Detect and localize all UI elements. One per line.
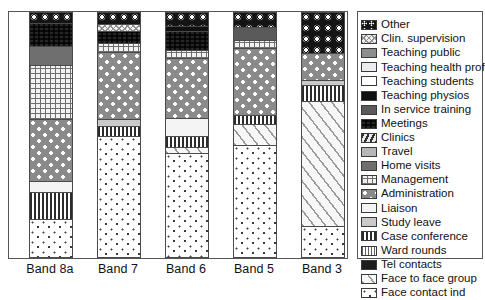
legend-item: Teaching students: [361, 74, 482, 88]
bar-band-6: [165, 12, 209, 258]
legend-item-label: Meetings: [381, 118, 428, 130]
bar-segment-in-service-training: [234, 27, 276, 41]
legend-item: Ward rounds: [361, 244, 482, 258]
legend-item-label: Administration: [381, 188, 454, 200]
bar-segment-case-conference: [98, 126, 140, 136]
bar-segment-face-contact-ind: [166, 153, 208, 257]
legend-swatch-icon: [361, 48, 377, 58]
legend-item-label: Face contact ind: [381, 287, 465, 299]
bar-segment-face-contact-ind: [30, 219, 72, 257]
bar-segment-administration: [30, 119, 72, 181]
bar-segment-other: [98, 13, 140, 24]
legend-item-label: Teaching physios: [381, 90, 469, 102]
legend-item: Teaching health prof: [361, 60, 482, 74]
bar-segment-other: [302, 13, 344, 53]
bar-band-3: [301, 12, 345, 258]
legend-item: Other: [361, 18, 482, 32]
bar-segment-face-to-face-group: [234, 124, 276, 145]
legend-swatch-icon: [361, 133, 377, 143]
bar-segment-other: [166, 13, 208, 26]
legend-item: Teaching physios: [361, 88, 482, 102]
legend-item: In service training: [361, 103, 482, 117]
legend-swatch-icon: [361, 105, 377, 115]
bar-segment-face-contact-ind: [98, 136, 140, 257]
legend-item-label: Management: [381, 174, 448, 186]
x-axis-labels: Band 8aBand 7Band 6Band 5Band 3: [8, 262, 348, 284]
legend-item-label: In service training: [381, 104, 471, 116]
x-axis-tick-label: Band 6: [151, 262, 221, 276]
legend-item: Clin. supervision: [361, 32, 482, 46]
legend-swatch-icon: [361, 217, 377, 227]
legend-item-label: Travel: [381, 146, 413, 158]
legend-item-label: Clin. supervision: [381, 33, 465, 45]
bar-segment-management: [166, 50, 208, 59]
legend-item-label: Tel contacts: [381, 259, 442, 271]
bar-segment-case-conference: [234, 115, 276, 125]
bar-segment-management: [30, 65, 72, 119]
legend-swatch-icon: [361, 189, 377, 199]
bar-band-8a: [29, 12, 73, 258]
legend-item: Case conference: [361, 229, 482, 243]
legend-item-label: Liaison: [381, 203, 417, 215]
legend-swatch-icon: [361, 76, 377, 86]
bar-band-7: [97, 12, 141, 258]
legend-swatch-icon: [361, 288, 377, 298]
legend-swatch-icon: [361, 91, 377, 101]
legend-item: Tel contacts: [361, 258, 482, 272]
legend-item-label: Clinics: [381, 132, 415, 144]
bar-segment-case-conference: [166, 136, 208, 147]
legend-swatch-icon: [361, 62, 377, 72]
legend-item: Face contact ind: [361, 286, 482, 300]
legend-item: Home visits: [361, 159, 482, 173]
legend-swatch-icon: [361, 119, 377, 129]
bar-segment-administration: [166, 58, 208, 118]
bar-segment-case-conference: [302, 85, 344, 101]
legend-item-label: Teaching students: [381, 76, 474, 88]
bar-segment-face-to-face-group: [302, 101, 344, 227]
legend-item: Face to face group: [361, 272, 482, 286]
legend-swatch-icon: [361, 203, 377, 213]
legend-item-label: Ward rounds: [381, 245, 446, 257]
legend-item-label: Teaching health prof: [381, 62, 485, 74]
legend-item-label: Teaching public: [381, 47, 460, 59]
legend-swatch-icon: [361, 260, 377, 270]
legend-item: Meetings: [361, 117, 482, 131]
legend-item-label: Home visits: [381, 160, 440, 172]
legend-swatch-icon: [361, 161, 377, 171]
legend-item: Teaching public: [361, 46, 482, 60]
legend-item: Liaison: [361, 201, 482, 215]
legend-item: Administration: [361, 187, 482, 201]
legend-item-label: Other: [381, 19, 410, 31]
x-axis-tick-label: Band 5: [219, 262, 289, 276]
bar-segment-face-contact-ind: [302, 226, 344, 257]
plot-area: [8, 11, 348, 259]
bar-segment-study-leave: [98, 119, 140, 126]
bar-segment-clin-supervision: [98, 24, 140, 31]
bar-segment-administration: [234, 48, 276, 115]
bar-segment-other: [234, 13, 276, 27]
legend-item-label: Face to face group: [381, 273, 477, 285]
legend-swatch-icon: [361, 231, 377, 241]
bar-segment-other: [30, 13, 72, 23]
bar-segment-study-leave: [166, 118, 208, 136]
legend-swatch-icon: [361, 274, 377, 284]
legend-swatch-icon: [361, 175, 377, 185]
legend-swatch-icon: [361, 246, 377, 256]
bar-segment-teaching-public: [30, 46, 72, 66]
bar-segment-study-leave: [30, 181, 72, 192]
legend-swatch-icon: [361, 34, 377, 44]
legend-item-label: Study leave: [381, 217, 441, 229]
legend-item: Study leave: [361, 215, 482, 229]
bar-segment-meetings: [166, 31, 208, 49]
x-axis-tick-label: Band 7: [83, 262, 153, 276]
bar-segment-clin-supervision: [30, 23, 72, 46]
bar-segment-administration: [98, 52, 140, 119]
bar-band-5: [233, 12, 277, 258]
x-axis-tick-label: Band 8a: [15, 262, 85, 276]
bar-segment-management: [98, 43, 140, 52]
chart-legend: OtherClin. supervisionTeaching publicTea…: [357, 11, 483, 259]
x-axis-tick-label: Band 3: [287, 262, 357, 276]
legend-item: Clinics: [361, 131, 482, 145]
legend-swatch-icon: [361, 147, 377, 157]
